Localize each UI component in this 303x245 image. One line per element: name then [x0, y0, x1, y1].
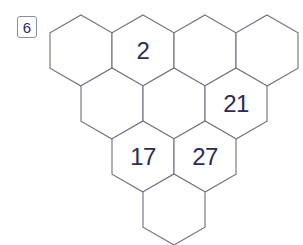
hexagon-outline-icon: [143, 174, 205, 245]
hex-cell-r3-c0[interactable]: [143, 174, 205, 245]
